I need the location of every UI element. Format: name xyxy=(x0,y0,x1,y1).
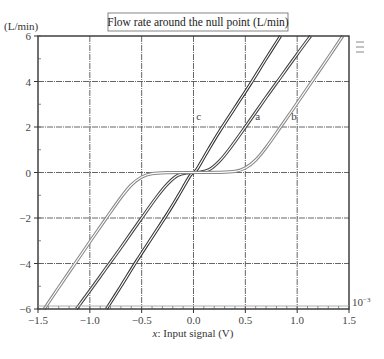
curve-label-b: b xyxy=(291,110,297,122)
scale-note: 10−3 xyxy=(352,296,371,308)
x-axis-text: : Input signal (V) xyxy=(157,327,233,340)
x-tick-label: −1.0 xyxy=(80,314,100,326)
y-tick-label: −4 xyxy=(19,258,31,270)
flow-rate-chart: −1.5−1.0−0.50.00.51.01.5−6−4−20246 cab F… xyxy=(0,0,384,359)
curve-label-a: a xyxy=(255,110,260,122)
annotations: cab xyxy=(196,110,297,122)
chart-title: Flow rate around the null point (L/min) xyxy=(107,16,289,29)
y-tick-label: −2 xyxy=(19,212,31,224)
x-tick-label: 0.0 xyxy=(187,314,201,326)
curve-label-c: c xyxy=(196,110,201,122)
x-tick-label: 1.0 xyxy=(290,314,304,326)
x-tick-label: −0.5 xyxy=(132,314,152,326)
y-tick-label: 0 xyxy=(26,167,32,179)
y-axis-label: (L/min) xyxy=(4,20,39,33)
y-tick-label: 2 xyxy=(26,121,32,133)
x-tick-label: −1.5 xyxy=(28,314,48,326)
y-tick-label: −6 xyxy=(19,303,31,315)
x-axis-label: x: Input signal (V) xyxy=(152,327,234,340)
x-tick-label: 0.5 xyxy=(238,314,252,326)
y-tick-label: 4 xyxy=(26,76,32,88)
legend-marker-icon xyxy=(356,42,364,52)
x-tick-label: 1.5 xyxy=(342,314,356,326)
scale-exponent: −3 xyxy=(363,296,371,304)
